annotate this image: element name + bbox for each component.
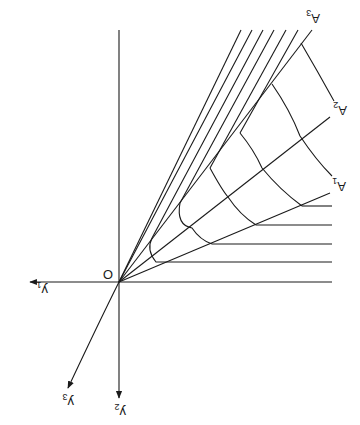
label-y2: y2: [114, 402, 126, 420]
arcs: [150, 43, 334, 262]
label-A1: A1: [332, 176, 346, 194]
label-y1: y1: [36, 280, 48, 298]
label-A3: A3: [306, 8, 320, 26]
axis-y3: [68, 282, 119, 388]
horizontal-lines: [119, 206, 332, 282]
svg-text:A2: A2: [333, 100, 347, 118]
label-y3: y3: [62, 392, 74, 410]
svg-text:y1: y1: [36, 280, 48, 298]
axes: [30, 30, 119, 398]
svg-text:y3: y3: [62, 392, 74, 410]
label-A2: A2: [333, 100, 347, 118]
ray-A1: [119, 193, 330, 282]
svg-text:y2: y2: [114, 402, 126, 420]
origin-label: O: [103, 267, 113, 282]
diagram-canvas: O y1 y2 y3 A1 A2 A3: [0, 0, 360, 425]
svg-text:A1: A1: [332, 176, 346, 194]
svg-text:A3: A3: [306, 8, 320, 26]
labels: O y1 y2 y3 A1 A2 A3: [36, 8, 347, 420]
